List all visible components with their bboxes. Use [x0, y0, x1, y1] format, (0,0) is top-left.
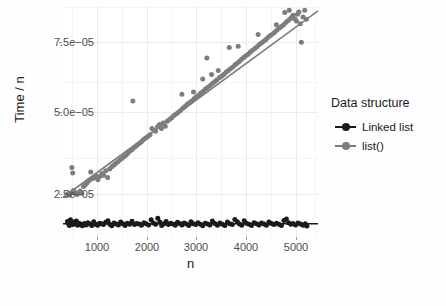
- data-point: [105, 175, 110, 180]
- data-point: [287, 8, 292, 13]
- y-axis-title: Time / n: [12, 55, 27, 145]
- data-point: [279, 223, 284, 228]
- x-tick-label: 2000: [135, 241, 159, 253]
- data-point: [88, 169, 93, 174]
- x-tick-mark: [246, 237, 247, 240]
- plot-panel: [63, 6, 318, 237]
- data-point: [296, 9, 301, 14]
- x-tick-label: 4000: [234, 241, 258, 253]
- data-point: [227, 45, 232, 50]
- y-tick-label: 7.5e−05: [54, 36, 94, 48]
- legend-item-list[interactable]: list(): [335, 136, 413, 155]
- data-point: [256, 32, 261, 37]
- data-point: [163, 124, 168, 129]
- data-point: [298, 21, 303, 26]
- x-axis-title: n: [63, 256, 318, 271]
- data-point: [153, 129, 158, 134]
- data-points-layer: [63, 6, 318, 237]
- y-tick-label: 2.5e−05: [54, 188, 94, 200]
- chart-figure: the constant factor is larger. However, …: [0, 0, 446, 306]
- legend-title: Data structure: [331, 96, 413, 110]
- data-point: [148, 132, 153, 137]
- data-point: [302, 8, 307, 13]
- data-point: [282, 10, 287, 15]
- legend-key-list: [335, 139, 356, 153]
- x-tick-label: 5000: [284, 241, 308, 253]
- legend-key-point: [342, 123, 350, 131]
- legend: Data structure Linked list list(): [331, 96, 413, 155]
- x-tick-mark: [296, 237, 297, 240]
- x-tick-mark: [97, 237, 98, 240]
- data-point: [191, 89, 196, 94]
- data-point: [299, 40, 304, 45]
- series-list: [63, 8, 318, 198]
- series-linked-list: [63, 216, 318, 229]
- data-point: [304, 224, 309, 229]
- data-point: [230, 222, 235, 227]
- data-point: [209, 72, 214, 77]
- y-tick-label: 5.0e−05: [54, 106, 94, 118]
- data-point: [70, 171, 75, 176]
- x-tick-label: 3000: [184, 241, 208, 253]
- legend-key-point: [342, 142, 350, 150]
- legend-label-list: list(): [362, 140, 384, 152]
- data-point: [239, 223, 244, 228]
- data-point: [236, 44, 241, 49]
- data-point: [304, 17, 309, 22]
- data-point: [146, 222, 151, 227]
- x-tick-mark: [196, 237, 197, 240]
- legend-label-linked-list: Linked list: [362, 121, 413, 133]
- legend-item-linked-list[interactable]: Linked list: [335, 117, 413, 136]
- data-point: [130, 98, 135, 103]
- legend-key-linked-list: [335, 120, 356, 134]
- data-point: [69, 165, 74, 170]
- data-point: [216, 68, 221, 73]
- data-point: [200, 76, 205, 81]
- x-tick-label: 1000: [85, 241, 109, 253]
- data-point: [179, 92, 184, 97]
- data-point: [204, 56, 209, 61]
- x-tick-mark: [147, 237, 148, 240]
